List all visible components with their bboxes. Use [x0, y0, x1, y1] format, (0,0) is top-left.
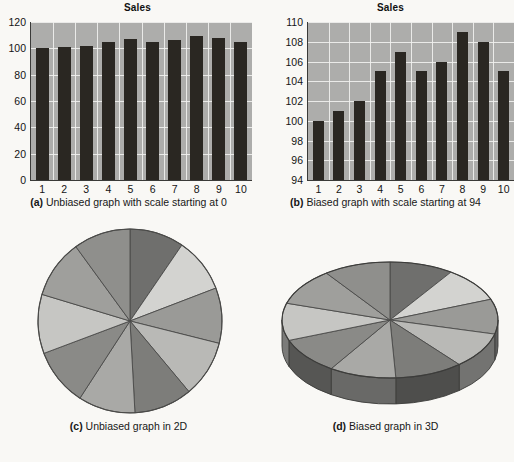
y-tick-label: 98	[291, 135, 303, 147]
x-tick-label: 8	[460, 183, 466, 195]
x-axis-line	[307, 180, 514, 181]
y-axis-line	[30, 22, 31, 180]
caption-a-text: Unbiased graph with scale starting at 0	[43, 196, 227, 208]
x-tick-label: 8	[194, 183, 200, 195]
y-tick-label: 100	[8, 42, 26, 54]
x-tick-label: 3	[83, 183, 89, 195]
caption-d: (d) Biased graph in 3D	[257, 420, 514, 432]
panel-a-unbiased-bar-chart: Sales 020406080100120 12345678910 (a) Un…	[0, 0, 257, 215]
caption-a-label: (a)	[30, 196, 43, 208]
x-tick-label: 10	[498, 183, 510, 195]
caption-a: (a) Unbiased graph with scale starting a…	[0, 196, 257, 208]
panel-c-unbiased-pie-2d: (c) Unbiased graph in 2D	[0, 218, 257, 462]
chart-a-y-axis: 020406080100120	[0, 0, 257, 184]
caption-c: (c) Unbiased graph in 2D	[0, 420, 257, 432]
caption-b-text: Biased graph with scale starting at 94	[303, 196, 480, 208]
y-tick-label: 108	[285, 36, 303, 48]
x-tick-label: 9	[216, 183, 222, 195]
caption-b-label: (b)	[290, 196, 303, 208]
x-tick-label: 6	[418, 183, 424, 195]
x-tick-label: 7	[172, 183, 178, 195]
caption-c-text: Unbiased graph in 2D	[83, 420, 187, 432]
x-tick-label: 7	[439, 183, 445, 195]
x-tick-label: 1	[39, 183, 45, 195]
y-tick-label: 102	[285, 95, 303, 107]
y-tick-label: 40	[14, 121, 26, 133]
x-tick-label: 3	[357, 183, 363, 195]
caption-c-label: (c)	[70, 420, 83, 432]
y-tick-label: 104	[285, 75, 303, 87]
panel-b-biased-bar-chart: Sales 949698100102104106108110 123456789…	[257, 0, 514, 215]
caption-d-text: Biased graph in 3D	[346, 420, 438, 432]
caption-d-label: (d)	[333, 420, 346, 432]
y-tick-label: 110	[286, 16, 303, 28]
x-tick-label: 1	[315, 183, 321, 195]
x-tick-label: 4	[377, 183, 383, 195]
pie-chart-3d	[275, 232, 505, 412]
y-tick-label: 0	[20, 174, 26, 186]
chart-b-y-axis: 949698100102104106108110	[257, 0, 514, 184]
panel-d-biased-pie-3d: (d) Biased graph in 3D	[257, 218, 514, 462]
caption-b: (b) Biased graph with scale starting at …	[257, 196, 514, 208]
x-tick-label: 6	[150, 183, 156, 195]
y-tick-label: 120	[8, 16, 26, 28]
y-tick-label: 96	[291, 154, 303, 166]
y-tick-label: 80	[14, 69, 26, 81]
x-tick-label: 2	[61, 183, 67, 195]
y-tick-label: 106	[285, 56, 303, 68]
y-tick-label: 94	[291, 174, 303, 186]
x-tick-label: 5	[128, 183, 134, 195]
x-tick-label: 4	[105, 183, 111, 195]
x-axis-line	[30, 180, 252, 181]
figure-panel-group: Sales 020406080100120 12345678910 (a) Un…	[0, 0, 514, 462]
x-tick-label: 9	[480, 183, 486, 195]
pie-chart-2d	[20, 226, 240, 416]
y-tick-label: 100	[285, 115, 303, 127]
x-tick-label: 5	[398, 183, 404, 195]
x-tick-label: 2	[336, 183, 342, 195]
x-tick-label: 10	[235, 183, 247, 195]
y-tick-label: 20	[14, 148, 26, 160]
y-tick-label: 60	[14, 95, 26, 107]
y-axis-line	[307, 22, 308, 180]
